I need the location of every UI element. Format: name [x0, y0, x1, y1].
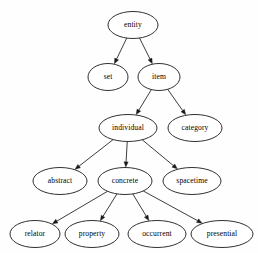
edge-concrete-to-property: [103, 194, 117, 216]
node-shape-individual: [99, 115, 157, 142]
edge-concrete-to-relator: [57, 191, 108, 221]
nodes-layer: entitysetitemindividualcategoryabstractc…: [10, 12, 253, 248]
edge-individual-to-concrete: [126, 142, 127, 162]
node-shape-abstract: [33, 168, 87, 195]
node-shape-category: [168, 115, 222, 142]
node-relator[interactable]: relator: [10, 221, 60, 248]
edge-concrete-to-presential: [143, 191, 197, 221]
node-property[interactable]: property: [65, 221, 119, 248]
arrowhead-individual-to-abstract: [75, 164, 80, 169]
node-item[interactable]: item: [138, 64, 180, 91]
arrowhead-concrete-to-presential: [197, 219, 203, 223]
node-spacetime[interactable]: spacetime: [163, 168, 221, 195]
node-individual[interactable]: individual: [99, 115, 157, 142]
node-shape-concrete: [98, 168, 152, 195]
node-shape-spacetime: [163, 168, 221, 195]
arrowhead-entity-to-set: [114, 58, 118, 64]
node-shape-occurrent: [128, 221, 186, 248]
graph-canvas: entitysetitemindividualcategoryabstractc…: [0, 0, 258, 253]
edge-concrete-to-occurrent: [133, 194, 146, 216]
node-shape-relator: [10, 221, 60, 248]
node-shape-entity: [108, 12, 158, 39]
node-occurrent[interactable]: occurrent: [128, 221, 186, 248]
arrowhead-concrete-to-occurrent: [144, 215, 148, 221]
node-shape-presential: [191, 221, 253, 248]
node-shape-item: [138, 64, 180, 91]
arrowhead-concrete-to-property: [100, 215, 105, 221]
node-presential[interactable]: presential: [191, 221, 253, 248]
arrowhead-individual-to-concrete: [124, 162, 128, 167]
node-shape-set: [88, 64, 128, 91]
node-entity[interactable]: entity: [108, 12, 158, 39]
arrowhead-item-to-category: [181, 109, 186, 114]
node-set[interactable]: set: [88, 64, 128, 91]
edge-entity-to-item: [140, 38, 151, 59]
edge-item-to-individual: [139, 90, 151, 111]
arrowhead-entity-to-item: [148, 58, 152, 64]
arrowhead-item-to-individual: [136, 109, 140, 115]
edge-entity-to-set: [117, 38, 127, 59]
node-abstract[interactable]: abstract: [33, 168, 87, 195]
edge-item-to-category: [168, 89, 183, 110]
node-shape-property: [65, 221, 119, 248]
arrowhead-concrete-to-relator: [52, 219, 58, 223]
node-concrete[interactable]: concrete: [98, 168, 152, 195]
edge-individual-to-abstract: [79, 140, 113, 166]
edge-individual-to-spacetime: [142, 140, 173, 166]
node-category[interactable]: category: [168, 115, 222, 142]
ontology-graph: entitysetitemindividualcategoryabstractc…: [0, 0, 258, 253]
